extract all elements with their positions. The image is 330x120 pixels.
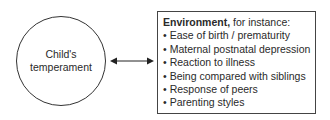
temperament-label-line-1: Child's [45, 48, 76, 61]
list-item: Reaction to illness [163, 56, 315, 69]
temperament-node: Child's temperament [16, 16, 106, 106]
environment-title-bold: Environment, [163, 16, 230, 28]
bidirectional-arrow-icon [110, 55, 154, 67]
temperament-label-line-2: temperament [30, 61, 92, 74]
environment-box: Environment, for instance: Ease of birth… [157, 11, 316, 114]
environment-title-rest: for instance: [230, 16, 290, 28]
list-item: Response of peers [163, 83, 315, 96]
list-item: Ease of birth / prematurity [163, 29, 315, 42]
environment-list: Ease of birth / prematurity Maternal pos… [163, 29, 315, 109]
list-item: Being compared with siblings [163, 70, 315, 83]
environment-title: Environment, for instance: [163, 16, 315, 29]
list-item: Parenting styles [163, 96, 315, 109]
list-item: Maternal postnatal depression [163, 43, 315, 56]
